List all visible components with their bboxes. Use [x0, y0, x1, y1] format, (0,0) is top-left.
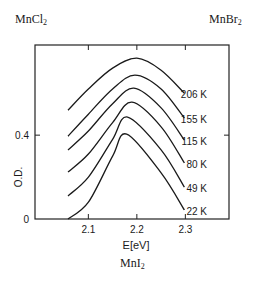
series-curve-206k	[68, 58, 184, 110]
series-label: 155 K	[181, 114, 207, 125]
series-label: 115 K	[182, 136, 208, 147]
series-label: 80 K	[186, 159, 207, 170]
series-label: 206 K	[181, 89, 207, 100]
x-tick-label: 2.3	[178, 224, 192, 235]
y-tick-label: 0.4	[15, 130, 29, 141]
series-label: 22 K	[186, 206, 207, 217]
series-curve-115k	[68, 88, 184, 150]
series-curve-155k	[68, 75, 184, 136]
series-curve-22k	[68, 134, 184, 219]
x-axis-label: E[eV]	[123, 239, 150, 251]
series-curve-80k	[68, 102, 184, 172]
y-tick-label: 0	[23, 214, 29, 225]
absorption-spectrum-chart: 2.12.22.3 00.4 206 K155 K115 K80 K49 K22…	[0, 0, 253, 282]
series-label: 49 K	[186, 183, 207, 194]
x-tick-label: 2.2	[130, 224, 144, 235]
y-axis-label: O.D.	[13, 167, 24, 188]
x-tick-label: 2.1	[81, 224, 95, 235]
